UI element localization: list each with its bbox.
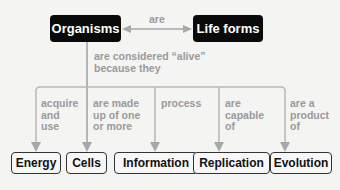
- edge-label-line: use: [41, 121, 78, 133]
- link-label-are: are: [149, 14, 165, 26]
- node-replication: Replication: [193, 152, 270, 174]
- edge-label-evolution: are a product of: [290, 98, 329, 133]
- branch-label: are considered “alive” because they: [94, 51, 205, 74]
- edge-label-cells: are made up of one or more: [93, 98, 140, 133]
- node-label: Information: [123, 156, 189, 170]
- node-label: Organisms: [52, 21, 120, 36]
- node-label: Cells: [72, 156, 101, 170]
- branch-label-line: are considered “alive”: [94, 51, 205, 63]
- edge-label-line: of: [225, 121, 264, 133]
- node-label: Replication: [199, 156, 264, 170]
- node-evolution: Evolution: [270, 152, 332, 174]
- arrowhead-right-icon: [183, 25, 192, 33]
- arrowhead-left-icon: [122, 25, 131, 33]
- branch-label-line: because they: [94, 63, 205, 75]
- node-energy: Energy: [11, 152, 61, 174]
- edge-label-line: are a: [290, 98, 329, 110]
- node-label: Energy: [16, 156, 57, 170]
- node-label: Evolution: [274, 156, 329, 170]
- edge-label-line: are made: [93, 98, 140, 110]
- node-information: Information: [114, 152, 198, 174]
- node-life-forms: Life forms: [193, 15, 263, 42]
- edge-label-line: acquire: [41, 98, 78, 110]
- node-cells: Cells: [66, 152, 107, 174]
- edge-label-line: or more: [93, 121, 140, 133]
- edge-label-energy: acquire and use: [41, 98, 78, 133]
- edge-label-line: process: [161, 98, 201, 110]
- edge-label-replication: are capable of: [225, 98, 264, 133]
- edge-label-information: process: [161, 98, 201, 110]
- node-organisms: Organisms: [50, 15, 121, 42]
- edge-label-line: of: [290, 121, 329, 133]
- node-label: Life forms: [197, 21, 260, 36]
- edge-label-line: are: [225, 98, 264, 110]
